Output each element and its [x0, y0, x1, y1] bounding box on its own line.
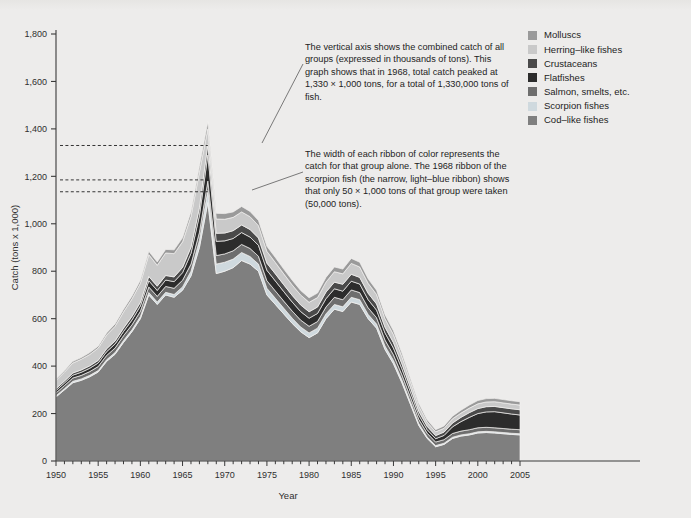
legend-label-scorpion-fishes: Scorpion fishes: [544, 101, 609, 111]
legend-swatch-flatfishes: [528, 73, 537, 82]
x-axis-labels: 1950195519601965197019751980198519901995…: [46, 470, 530, 480]
y-tick-label: 400: [32, 361, 47, 371]
y-tick-label: 200: [32, 409, 47, 419]
legend-label-crustaceans: Crustaceans: [544, 59, 597, 69]
legend-item-herring-like-fishes[interactable]: Herring–like fishes: [528, 42, 688, 56]
leader-total-catch: [262, 64, 303, 143]
reference-lines: [60, 145, 208, 191]
x-axis-title: Year: [278, 490, 297, 501]
x-tick-label: 1990: [383, 470, 403, 480]
legend-swatch-cod-like-fishes: [528, 116, 537, 125]
annotation-total-catch: The vertical axis shows the combined cat…: [305, 41, 517, 103]
x-tick-label: 1980: [299, 470, 319, 480]
x-tick-label: 2005: [510, 470, 530, 480]
legend-item-scorpion-fishes[interactable]: Scorpion fishes: [528, 99, 688, 113]
chart-page: 02004006008001,0001,2001,4001,6001,80019…: [0, 0, 691, 518]
y-tick-label: 1,200: [24, 172, 47, 182]
x-tick-label: 1970: [215, 470, 235, 480]
legend-label-herring-like-fishes: Herring–like fishes: [544, 45, 622, 55]
legend-swatch-crustaceans: [528, 59, 537, 68]
x-tick-label: 1955: [88, 470, 108, 480]
legend-item-flatfishes[interactable]: Flatfishes: [528, 71, 688, 85]
legend-item-molluscs[interactable]: Molluscs: [528, 28, 688, 42]
y-tick-label: 1,400: [24, 124, 47, 134]
y-tick-label: 800: [32, 266, 47, 276]
y-tick-label: 1,600: [24, 77, 47, 87]
x-tick-label: 1960: [130, 470, 150, 480]
x-tick-label: 1965: [173, 470, 193, 480]
y-tick-label: 1,000: [24, 219, 47, 229]
legend-item-cod-like-fishes[interactable]: Cod–like fishes: [528, 113, 688, 127]
legend-swatch-herring-like-fishes: [528, 45, 537, 54]
x-axis-minor-ticks: [56, 461, 520, 466]
y-tick-label: 600: [32, 314, 47, 324]
legend-swatch-salmon-smelts: [528, 87, 537, 96]
legend-swatch-molluscs: [528, 31, 537, 40]
legend-item-salmon-smelts[interactable]: Salmon, smelts, etc.: [528, 85, 688, 99]
x-tick-label: 2000: [468, 470, 488, 480]
leader-ribbon-width: [252, 172, 303, 190]
legend-label-molluscs: Molluscs: [544, 30, 581, 40]
legend-label-flatfishes: Flatfishes: [544, 73, 585, 83]
y-axis-title: Catch (tons x 1,000): [9, 205, 20, 291]
chart-legend: Molluscs Herring–like fishes Crustaceans…: [528, 28, 688, 127]
legend-label-cod-like-fishes: Cod–like fishes: [544, 115, 608, 125]
x-tick-label: 1950: [46, 470, 66, 480]
annotation-ribbon-width: The width of each ribbon of color repres…: [305, 148, 517, 210]
y-tick-label: 0: [42, 456, 47, 466]
annotation-leaders: [252, 64, 303, 190]
y-axis-ticks: 02004006008001,0001,2001,4001,6001,800: [24, 29, 56, 466]
x-tick-label: 1975: [257, 470, 277, 480]
y-tick-label: 1,800: [24, 29, 47, 39]
legend-label-salmon-smelts: Salmon, smelts, etc.: [544, 87, 630, 97]
legend-item-crustaceans[interactable]: Crustaceans: [528, 56, 688, 70]
x-tick-label: 1995: [426, 470, 446, 480]
x-tick-label: 1985: [341, 470, 361, 480]
legend-swatch-scorpion-fishes: [528, 102, 537, 111]
